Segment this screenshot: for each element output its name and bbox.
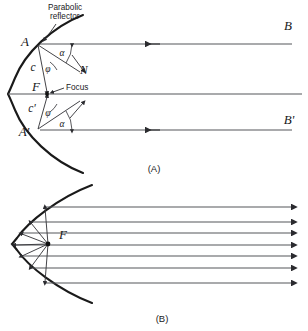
label-point-a: A — [20, 34, 29, 49]
caption-panel-a: (A) — [148, 163, 161, 174]
focus-dot-b — [46, 242, 51, 247]
parabolic-reflector-figure: Parabolic reflector A A' B B' F Focus c … — [0, 0, 308, 331]
label-point-b-prime: B' — [284, 112, 295, 127]
label-phi-upper: φ — [45, 64, 50, 74]
focus-ray-1 — [45, 208, 48, 244]
parabola-curve-b — [12, 185, 92, 303]
panel-b: F (B) — [12, 185, 292, 324]
caption-panel-b: (B) — [156, 313, 169, 324]
focus-dot-a — [45, 92, 49, 96]
label-point-f-b: F — [58, 227, 68, 242]
label-phi-lower: φ — [45, 108, 50, 118]
label-alpha-lower: α — [60, 119, 66, 129]
angle-arc-alpha-lower — [66, 111, 72, 130]
label-point-a-prime: A' — [18, 124, 30, 139]
label-point-b: B — [284, 18, 292, 33]
focus-leader-line — [53, 88, 64, 92]
angle-arc-phi-upper — [50, 62, 57, 70]
angle-arc-alpha-upper — [66, 44, 72, 63]
label-normal-n: N — [79, 64, 89, 76]
focus-ray-7 — [45, 244, 48, 282]
reflector-label-line2: reflector — [50, 12, 80, 21]
label-segment-c: c — [30, 61, 35, 73]
angle-arc-phi-lower — [50, 104, 57, 112]
normal-arrow-lower — [70, 103, 83, 118]
reflector-label-line1: Parabolic — [48, 3, 82, 12]
label-segment-c-prime: c' — [28, 102, 36, 114]
label-alpha-upper: α — [60, 48, 66, 58]
figure-canvas: Parabolic reflector A A' B B' F Focus c … — [0, 0, 308, 331]
label-point-f-a: F — [31, 79, 41, 94]
panel-a: Parabolic reflector A A' B B' F Focus c … — [8, 3, 302, 174]
label-focus-note: Focus — [66, 83, 88, 92]
